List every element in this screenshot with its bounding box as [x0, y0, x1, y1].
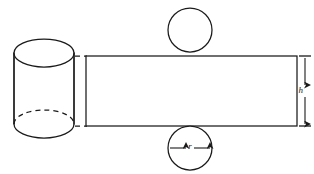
cylinder-net-diagram: h r [0, 0, 314, 174]
height-label: h [299, 85, 304, 95]
cylinder-top-ellipse [14, 39, 74, 67]
cylinder-solid [14, 39, 74, 138]
geometry-figure: h r [0, 0, 314, 174]
lateral-surface-rectangle [86, 56, 297, 126]
top-cap-circle [168, 8, 212, 52]
height-dimension: h [299, 56, 312, 126]
radius-label: r [188, 141, 192, 151]
